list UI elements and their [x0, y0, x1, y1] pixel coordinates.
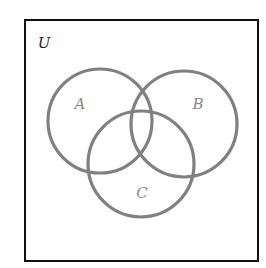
universe-box — [25, 20, 258, 261]
universe-label: U — [38, 34, 52, 52]
set-c-label: C — [136, 184, 148, 202]
venn-diagram: U A B C — [0, 0, 266, 268]
set-b-label: B — [191, 95, 203, 113]
set-a-label: A — [73, 95, 86, 113]
